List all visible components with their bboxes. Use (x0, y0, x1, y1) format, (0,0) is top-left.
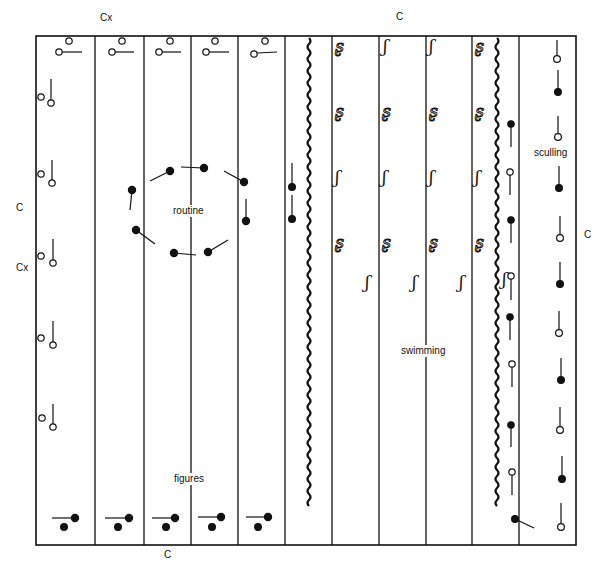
rope-lane-swimmers (289, 163, 296, 222)
left-lane-swimmers (38, 79, 56, 430)
svg-text:ʂ: ʂ (429, 101, 438, 121)
svg-text:ʂ: ʂ (429, 232, 438, 252)
label-routine: routine (172, 205, 205, 217)
svg-text:ʃ: ʃ (455, 272, 467, 292)
svg-text:ʃ: ʃ (361, 272, 373, 292)
lane-rope-left (308, 38, 311, 506)
svg-text:ʃ: ʃ (425, 167, 437, 187)
svg-text:ʂ: ʂ (475, 36, 484, 56)
figures-start-positions (56, 38, 277, 57)
label-bottom-c: C (164, 550, 171, 560)
figures-end-positions (52, 513, 272, 530)
svg-text:ʃ: ʃ (408, 272, 420, 292)
svg-text:ʃ: ʃ (378, 167, 390, 187)
label-top-right-c: C (396, 12, 403, 22)
svg-text:ʂ: ʂ (335, 101, 344, 121)
svg-text:ʃ: ʃ (379, 36, 391, 56)
label-top-left-cx: Cx (100, 13, 112, 23)
warmup-lane-swimmers (507, 121, 534, 528)
label-swimming: swimming (400, 345, 446, 357)
label-sculling: sculling (533, 147, 568, 159)
swimming-lanes: ʂ ʃ ʃ ʂ ʂ ʂ ʂ ʂ ʃ ʃ ʃ ʃ ʂ ʂ ʂ ʂ ʃ ʃ ʃ ʃ (331, 36, 510, 292)
svg-text:ʃ: ʃ (425, 36, 437, 56)
svg-text:ʃ: ʃ (331, 167, 343, 187)
pool-diagram: ʂ ʃ ʃ ʂ ʂ ʂ ʂ ʂ ʃ ʃ ʃ ʃ ʂ ʂ ʂ ʂ ʃ ʃ ʃ ʃ (0, 0, 599, 576)
svg-text:ʂ: ʂ (475, 101, 484, 121)
sculling-lane-swimmers (554, 40, 566, 530)
svg-text:ʃ: ʃ (471, 167, 483, 187)
svg-text:ʂ: ʂ (475, 232, 484, 252)
svg-text:ʂ: ʂ (335, 36, 344, 56)
svg-text:ʂ: ʂ (382, 232, 391, 252)
label-figures: figures (173, 473, 205, 485)
label-left-upper-c: C (16, 203, 23, 213)
svg-text:ʂ: ʂ (335, 232, 344, 252)
svg-text:ʃ: ʃ (498, 269, 510, 289)
svg-text:ʂ: ʂ (382, 101, 391, 121)
label-left-lower-cx: Cx (16, 263, 28, 273)
label-right-c: C (584, 230, 591, 240)
lane-rope-right (496, 38, 499, 506)
